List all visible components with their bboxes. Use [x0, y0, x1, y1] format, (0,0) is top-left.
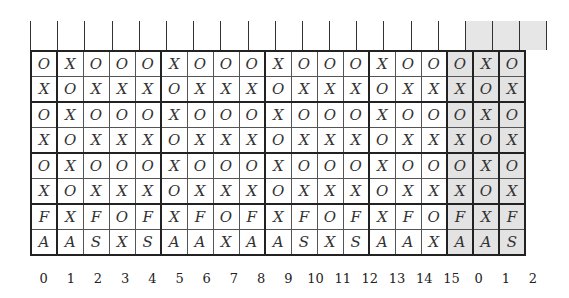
grid-cell: F: [31, 204, 57, 230]
column-stub: [57, 21, 84, 50]
grid-cell: O: [57, 77, 83, 103]
grid-cell: A: [447, 230, 473, 256]
grid-cell: O: [447, 153, 473, 179]
grid-cell: F: [395, 204, 421, 230]
grid-cell: O: [135, 51, 161, 77]
column-label: 14: [411, 271, 438, 286]
grid-cell: O: [369, 179, 395, 205]
column-stub: [302, 21, 329, 50]
grid-cell: F: [187, 204, 213, 230]
grid-cell: O: [499, 51, 525, 77]
grid-cell: O: [213, 204, 239, 230]
column-stub: [438, 21, 465, 50]
grid-cell: X: [239, 128, 265, 154]
column-stub: [139, 21, 166, 50]
grid-cell: O: [187, 153, 213, 179]
grid-cell: X: [239, 77, 265, 103]
column-label: 5: [166, 271, 193, 286]
column-stub: [84, 21, 111, 50]
grid-row: OXOOOXOOOXOOOXOOOXO: [31, 102, 525, 128]
grid-cell: X: [83, 179, 109, 205]
grid-cell: X: [187, 128, 213, 154]
column-stubs: [30, 21, 547, 50]
grid-cell: O: [499, 153, 525, 179]
grid-cell: O: [317, 204, 343, 230]
grid-cell: O: [395, 153, 421, 179]
column-stub: [30, 21, 57, 50]
column-label: 6: [193, 271, 220, 286]
column-label: 0: [465, 271, 492, 286]
grid-cell: X: [161, 204, 187, 230]
column-stub: [275, 21, 302, 50]
grid-cell: F: [83, 204, 109, 230]
grid-row: FXFOFXFOFXFOFXFOFXF: [31, 204, 525, 230]
grid-cell: A: [395, 230, 421, 256]
grid-cell: X: [421, 179, 447, 205]
grid-cell: X: [291, 179, 317, 205]
grid-cell: F: [291, 204, 317, 230]
grid-cell: F: [447, 204, 473, 230]
grid-cell: X: [317, 179, 343, 205]
grid-cell: X: [421, 230, 447, 256]
grid-cell: F: [499, 204, 525, 230]
grid-cell: X: [421, 128, 447, 154]
grid-cell: O: [135, 153, 161, 179]
grid-cell: O: [161, 179, 187, 205]
grid-cell: O: [83, 153, 109, 179]
grid-cell: X: [57, 51, 83, 77]
column-label: 1: [492, 271, 519, 286]
grid-cell: X: [31, 179, 57, 205]
grid-cell: O: [213, 153, 239, 179]
grid-cell: O: [369, 77, 395, 103]
grid-cell: O: [83, 51, 109, 77]
grid-cell: O: [109, 204, 135, 230]
grid-cell: A: [369, 230, 395, 256]
grid-cell: O: [265, 179, 291, 205]
column-label: 7: [220, 271, 247, 286]
grid-cell: X: [291, 128, 317, 154]
grid-cell: X: [213, 179, 239, 205]
column-stub: [220, 21, 247, 50]
grid-cell: O: [395, 102, 421, 128]
grid-cell: O: [109, 51, 135, 77]
grid-cell: O: [421, 153, 447, 179]
column-stub: [248, 21, 275, 50]
grid-cell: O: [265, 77, 291, 103]
grid-cell: O: [187, 51, 213, 77]
column-label: 12: [356, 271, 383, 286]
grid-cell: O: [109, 102, 135, 128]
grid-cell: F: [135, 204, 161, 230]
grid-cell: X: [109, 179, 135, 205]
grid-row: XOXXXOXXXOXXXOXXXOX: [31, 179, 525, 205]
grid-cell: X: [31, 77, 57, 103]
grid-cell: A: [187, 230, 213, 256]
grid-cell: O: [447, 51, 473, 77]
grid-cell: X: [343, 179, 369, 205]
grid-cell: X: [161, 102, 187, 128]
grid-cell: A: [161, 230, 187, 256]
grid-cell: O: [447, 102, 473, 128]
symbol-grid: OXOOOXOOOXOOOXOOOXOXOXXXOXXXOXXXOXXXOXOX…: [30, 50, 526, 256]
grid-cell: A: [239, 230, 265, 256]
grid-cell: X: [57, 204, 83, 230]
grid-cell: X: [161, 51, 187, 77]
column-label: 0: [30, 271, 57, 286]
grid-cell: O: [421, 204, 447, 230]
grid-cell: O: [239, 102, 265, 128]
grid-cell: X: [499, 77, 525, 103]
grid-cell: O: [187, 102, 213, 128]
grid-cell: X: [317, 230, 343, 256]
column-label: 9: [275, 271, 302, 286]
column-labels: 0123456789101112131415012: [30, 271, 547, 286]
column-stub: [356, 21, 383, 50]
grid-cell: X: [83, 77, 109, 103]
grid-cell: X: [83, 128, 109, 154]
grid-cell: X: [239, 179, 265, 205]
grid-cell: O: [213, 51, 239, 77]
grid-cell: X: [499, 179, 525, 205]
grid-cell: X: [187, 77, 213, 103]
grid-cell: O: [31, 51, 57, 77]
grid-cell: O: [57, 179, 83, 205]
grid-cell: A: [265, 230, 291, 256]
grid-cell: O: [395, 51, 421, 77]
